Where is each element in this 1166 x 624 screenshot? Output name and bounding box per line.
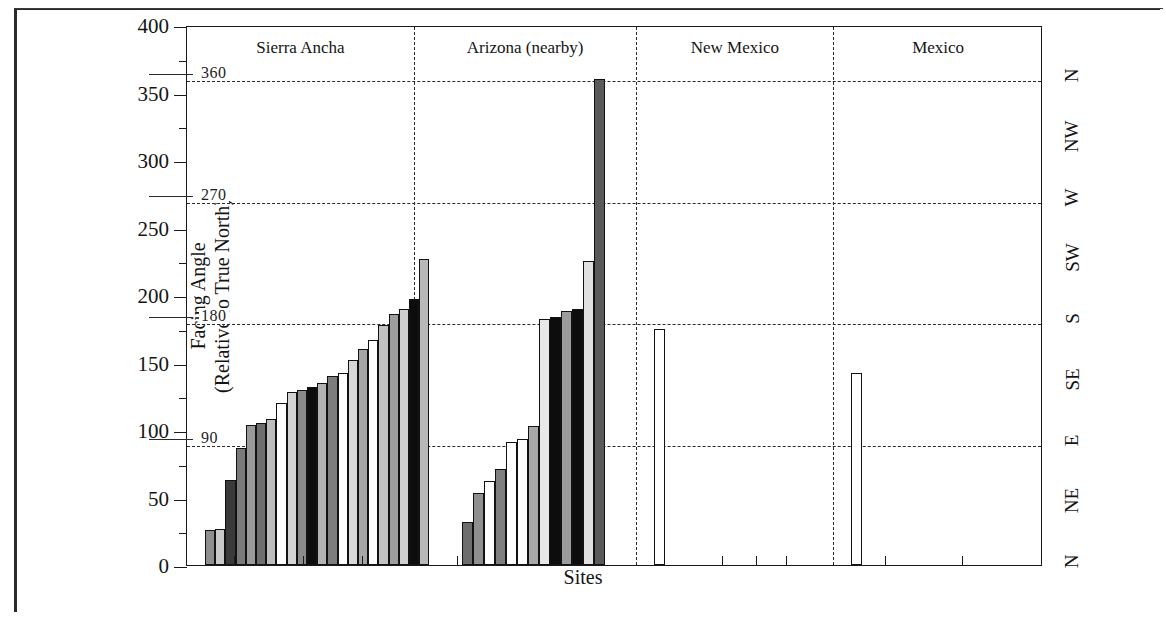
gridline-horizontal [187,324,1041,325]
y-axis-tick-label: 200 [91,286,169,307]
gridline-label: 90 [199,430,220,446]
region-separator [636,27,637,565]
x-axis-tick [362,556,363,565]
y-axis-minor-tick [179,263,187,264]
gridline-leader [149,439,193,440]
bar [484,481,495,565]
x-axis-tick [303,556,304,565]
bar [205,530,215,565]
compass-label-text: E [1062,434,1081,446]
bar [462,522,473,565]
bar [246,425,256,565]
compass-label-se: SE [1052,370,1092,389]
bar [517,439,528,565]
compass-label-text: W [1063,188,1082,206]
x-axis-tick [756,556,757,565]
bar [287,392,297,565]
compass-label-nw: NW [1052,127,1092,146]
y-axis-title-line2: (Relative to True North) [211,199,233,393]
region-title-sierra-ancha: Sierra Ancha [187,39,414,56]
bar [276,403,286,565]
bar [539,319,550,565]
bar [225,480,235,565]
gridline-horizontal [187,203,1041,204]
gridline-leader [149,196,193,197]
y-axis-tick-label: 300 [91,151,169,172]
compass-label-text: SW [1063,244,1082,273]
y-axis-tick [174,162,187,163]
bar [506,442,517,565]
bar [256,423,266,565]
compass-label-w: W [1052,188,1092,207]
bar [473,493,484,565]
y-axis-tick-label: 250 [91,219,169,240]
x-axis-tick [885,556,886,565]
y-axis-tick [174,365,187,366]
y-axis-minor-tick [179,533,187,534]
bar [495,469,506,565]
x-axis-tick [457,556,458,565]
y-axis-tick-label: 350 [91,84,169,105]
bar [236,448,246,565]
bar [266,419,276,565]
x-axis-tick [786,556,787,565]
y-axis-tick [174,95,187,96]
y-axis-minor-tick [179,61,187,62]
bar [338,373,348,565]
y-axis-tick-label: 400 [91,16,169,37]
y-axis-title-line1: Facing Angle [187,242,209,349]
region-separator [833,27,834,565]
compass-label-text: N [1062,69,1081,83]
bar [317,383,327,565]
y-axis-tick [174,432,187,433]
figure-bar-chart: Facing Angle (Relative to True North) 05… [0,0,1166,624]
bar [399,309,409,566]
y-axis-tick [174,230,187,231]
bar [594,79,605,565]
compass-label-sw: SW [1052,248,1092,267]
compass-label-ne: NE [1052,491,1092,510]
compass-label-n: N [1052,66,1092,85]
compass-label-text: S [1062,313,1081,324]
bar [654,329,665,565]
y-axis-minor-tick [179,398,187,399]
region-title-new-mexico: New Mexico [636,39,833,56]
gridline-label: 180 [199,308,229,324]
bar [215,529,225,565]
y-axis-tick [174,297,187,298]
bar [550,317,561,565]
bar [297,390,307,566]
gridline-label: 270 [199,187,229,203]
bar [327,376,337,565]
compass-label-s: S [1052,309,1092,328]
bar [348,360,358,565]
bar [307,387,317,565]
plot-area: Facing Angle (Relative to True North) 05… [186,26,1042,566]
bar [851,373,862,565]
compass-label-n: N [1052,552,1092,571]
y-axis-tick [174,27,187,28]
region-title-arizona-nearby: Arizona (nearby) [414,39,637,56]
y-axis-minor-tick [179,466,187,467]
compass-label-text: N [1062,555,1081,569]
x-axis-tick [234,556,235,565]
y-axis-tick [174,500,187,501]
bar [378,325,388,565]
gridline-horizontal [187,81,1041,82]
compass-label-text: NE [1062,488,1081,513]
y-axis-tick-label: 50 [91,489,169,510]
x-axis-tick [962,556,963,565]
bar [561,311,572,565]
bar [572,309,583,566]
gridline-leader [149,317,193,318]
x-axis-tick [722,556,723,565]
bar [358,349,368,565]
bar [368,340,378,565]
y-axis-minor-tick [179,128,187,129]
bar [389,314,399,565]
region-title-mexico: Mexico [833,39,1043,56]
x-axis-title: Sites [0,566,1166,589]
compass-label-e: E [1052,431,1092,450]
bar [583,261,594,565]
y-axis-minor-tick [179,331,187,332]
